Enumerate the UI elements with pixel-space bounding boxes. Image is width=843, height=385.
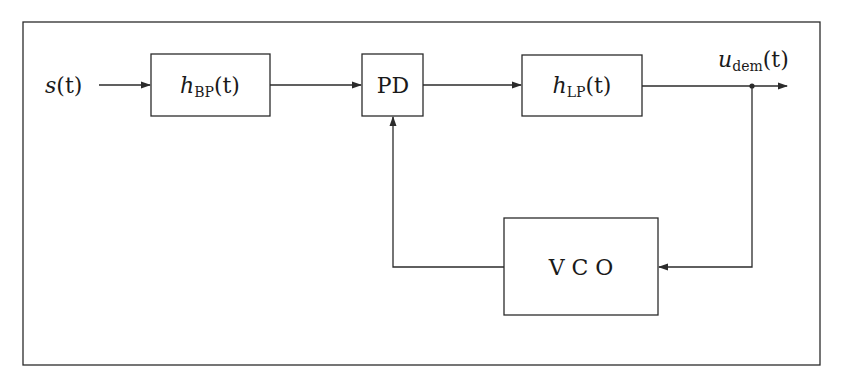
phase-detector-block: PD	[362, 54, 423, 116]
svg-text:PD: PD	[377, 73, 409, 98]
vco-to-pd-feedback-arrow	[393, 117, 504, 267]
pll-block-diagram: s(t) hBP(t) PD hLP(t) udem(t) V C O	[0, 0, 843, 385]
lowpass-filter-block: hLP(t)	[522, 55, 642, 116]
input-signal-label: s(t)	[45, 73, 82, 98]
svg-text:V C O: V C O	[548, 255, 614, 280]
vco-block: V C O	[504, 218, 658, 315]
bandpass-filter-block: hBP(t)	[151, 54, 270, 116]
output-signal-label: udem(t)	[718, 47, 789, 74]
output-to-vco-feedback-arrow	[659, 86, 752, 267]
